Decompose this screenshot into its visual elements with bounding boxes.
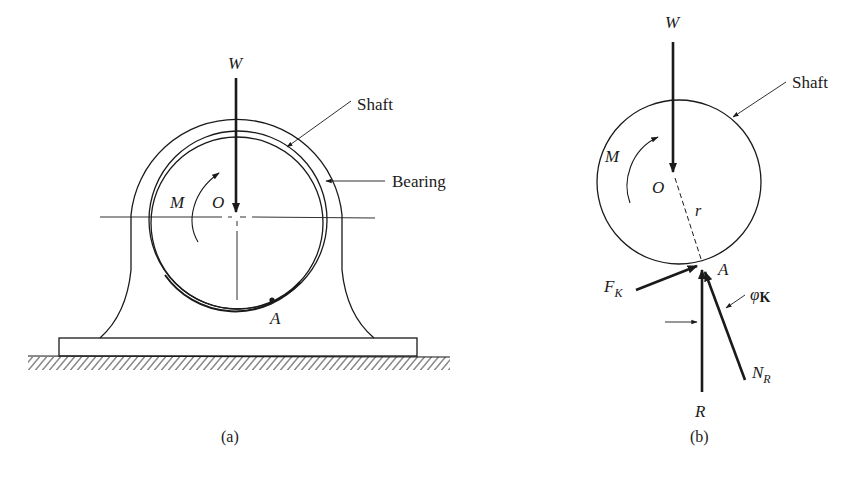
weight-label: W [228, 54, 244, 73]
contact-point-label-b: A [717, 260, 729, 279]
normal-force-label: NR [751, 363, 771, 386]
figure-a: W M O A Shaft Bearing (a) [28, 54, 450, 446]
shaft-label-b: Shaft [792, 73, 828, 92]
figure-b: W M O r A Shaft FK R NR φK (b) [597, 13, 828, 446]
moment-label-b: M [604, 147, 620, 166]
friction-angle-label: φK [750, 285, 770, 305]
friction-angle-arrow-right [726, 295, 745, 308]
resultant-label: R [694, 402, 706, 421]
centerlines [100, 217, 375, 300]
center-label: O [212, 193, 224, 212]
shaft-leader [287, 101, 351, 147]
friction-force-label: FK [603, 277, 623, 300]
contact-point-label: A [269, 309, 281, 328]
base-plate [59, 338, 417, 356]
ground-hatching [28, 356, 450, 370]
moment-label: M [169, 193, 185, 212]
caption-b: (b) [690, 428, 709, 446]
contact-region [165, 275, 300, 311]
weight-label-b: W [665, 13, 681, 32]
contact-point-a [269, 297, 274, 302]
friction-force-arrow [636, 266, 697, 290]
radius-label: r [695, 202, 702, 219]
shaft-free-body [597, 100, 761, 264]
shaft-label: Shaft [357, 95, 393, 114]
caption-a: (a) [221, 428, 239, 446]
center-label-b: O [652, 178, 664, 197]
normal-force-arrow [705, 272, 745, 380]
radius-line [675, 178, 702, 262]
bearing-label: Bearing [392, 172, 446, 191]
journal-bearing-diagram: W M O A Shaft Bearing (a) W M O r A [0, 0, 857, 478]
shaft-leader-b [733, 82, 786, 117]
